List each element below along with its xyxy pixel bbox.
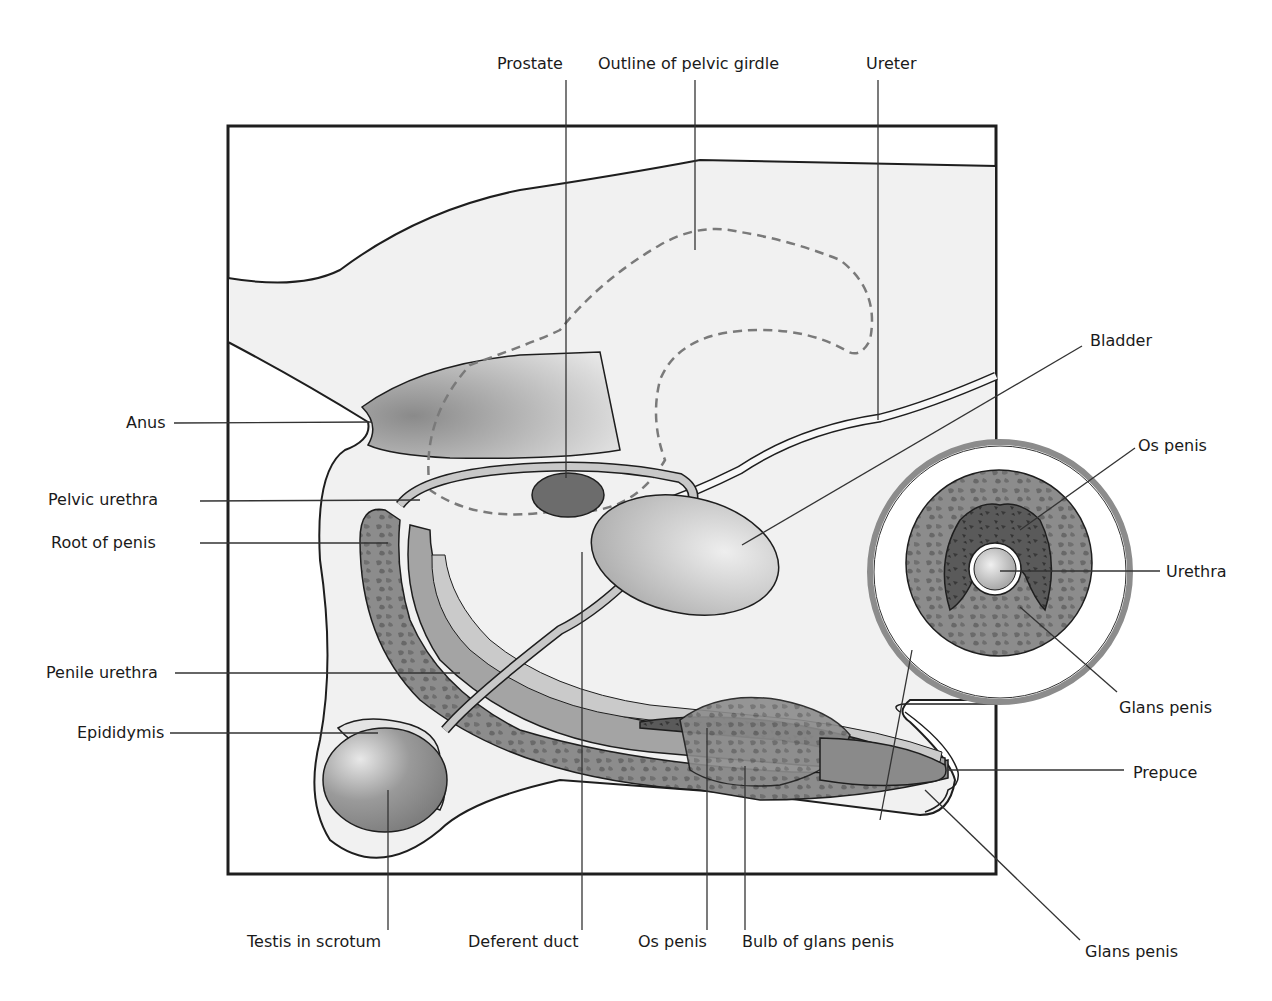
label-prostate: Prostate: [497, 55, 563, 73]
label-glans-penis: Glans penis: [1085, 943, 1178, 961]
label-pelvic-girdle: Outline of pelvic girdle: [598, 55, 779, 73]
label-prepuce: Prepuce: [1133, 764, 1197, 782]
label-os-penis-section: Os penis: [1138, 437, 1207, 455]
label-deferent-duct: Deferent duct: [468, 933, 579, 951]
label-pelvic-urethra: Pelvic urethra: [48, 491, 158, 509]
label-bulb-glans: Bulb of glans penis: [742, 933, 894, 951]
label-os-penis: Os penis: [638, 933, 707, 951]
testis-organ: [323, 728, 447, 832]
cross-section-urethra: [974, 548, 1016, 590]
label-root-of-penis: Root of penis: [51, 534, 156, 552]
label-bladder: Bladder: [1090, 332, 1152, 350]
label-glans-penis-section: Glans penis: [1119, 699, 1212, 717]
label-testis: Testis in scrotum: [247, 933, 381, 951]
label-anus: Anus: [126, 414, 166, 432]
label-ureter: Ureter: [866, 55, 916, 73]
label-penile-urethra: Penile urethra: [46, 664, 158, 682]
label-epididymis: Epididymis: [77, 724, 164, 742]
label-urethra-section: Urethra: [1166, 563, 1227, 581]
anatomy-diagram: [0, 0, 1272, 1001]
prostate-gland: [532, 473, 604, 517]
